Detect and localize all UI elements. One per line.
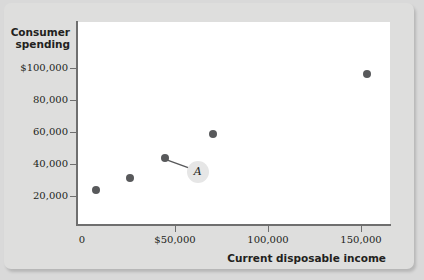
x-axis-line: [76, 224, 391, 226]
y-axis-tick-label: 40,000: [33, 159, 68, 169]
y-axis-title-line-2: spending: [8, 38, 70, 50]
y-axis-tick: [70, 100, 77, 101]
y-axis-title-line-1: Consumer: [8, 26, 70, 38]
plot-area: [77, 22, 390, 224]
x-axis-tick: [268, 225, 269, 232]
y-axis-tick: [70, 196, 77, 197]
data-point: [209, 130, 217, 138]
x-axis-tick-label: 100,000: [228, 235, 308, 245]
y-axis-title: Consumer spending: [8, 26, 70, 50]
x-axis-tick: [175, 225, 176, 232]
y-axis-tick-label: 80,000: [33, 95, 68, 105]
x-axis-tick: [361, 225, 362, 232]
y-axis-tick-label: 20,000: [33, 191, 68, 201]
y-axis-tick-label: $100,000: [20, 63, 68, 73]
y-axis-tick: [70, 132, 77, 133]
x-axis-tick-label: $50,000: [135, 235, 215, 245]
x-axis-tick-label: 150,000: [321, 235, 401, 245]
data-point: [363, 70, 371, 78]
x-axis-title: Current disposable income: [180, 252, 386, 264]
x-axis-tick-label: 0: [42, 235, 122, 245]
y-axis-tick-label: 60,000: [33, 127, 68, 137]
data-point: [161, 154, 169, 162]
point-label: A: [187, 166, 209, 178]
data-point: [92, 186, 100, 194]
scatter-chart-figure: Consumer spending Current disposable inc…: [0, 0, 424, 280]
y-axis-tick: [70, 164, 77, 165]
y-axis-tick: [70, 68, 77, 69]
